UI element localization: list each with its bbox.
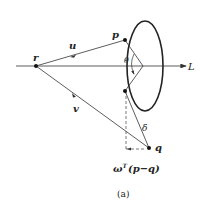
theta-arc (132, 54, 135, 74)
label-v: v (73, 103, 79, 114)
point-q (147, 146, 151, 150)
label-p: p (112, 29, 119, 40)
point-r (34, 64, 38, 68)
label-r: r (33, 52, 39, 63)
point-p (123, 38, 127, 42)
vector-u (36, 40, 125, 66)
label-theta: θ (124, 56, 129, 65)
projection-arrow-icon (127, 148, 131, 151)
label-u: u (69, 40, 76, 51)
figure-caption: (a) (117, 189, 129, 199)
label-L: L (187, 61, 195, 72)
cone-diagram: r p q u v L θ δ ωT(p−q) (a) (0, 0, 204, 211)
label-delta: δ (142, 123, 147, 133)
projection-formula: ωT(p−q) (113, 162, 160, 174)
point-lower (123, 89, 127, 93)
label-q: q (155, 142, 162, 153)
